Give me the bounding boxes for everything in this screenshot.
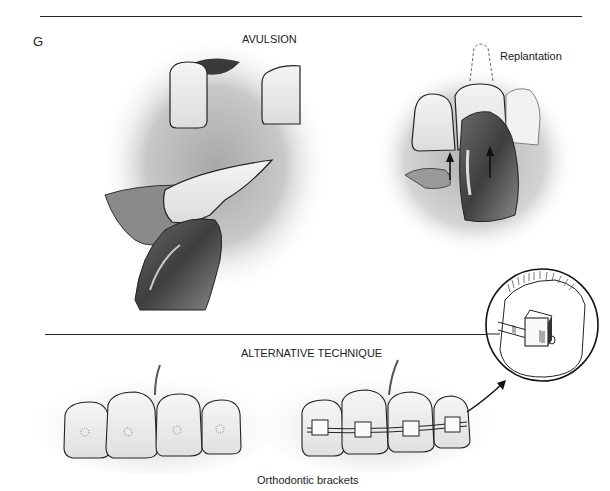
- bracket: [355, 422, 371, 437]
- bracket: [403, 421, 419, 436]
- alternative-technique-illustration: [0, 0, 610, 491]
- bracket-detail-inset: [486, 269, 598, 381]
- teeth-bonding-group: [64, 392, 241, 458]
- bracket: [312, 420, 328, 435]
- arrow-icon: [497, 380, 506, 390]
- bracket: [445, 417, 460, 432]
